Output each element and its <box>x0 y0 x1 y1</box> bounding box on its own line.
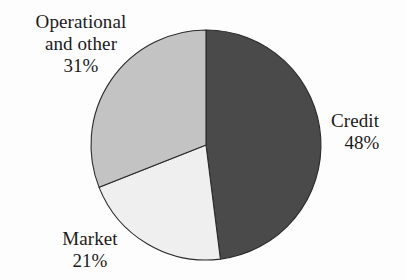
pie-label-credit-line1: Credit <box>331 110 403 132</box>
pie-slice-credit[interactable] <box>206 30 321 259</box>
pie-label-market-line1: Market <box>42 228 138 250</box>
pie-label-credit: Credit 48% <box>331 110 403 154</box>
pie-label-market-value: 21% <box>42 250 138 272</box>
pie-chart: Operational and other 31% Credit 48% Mar… <box>0 0 406 280</box>
pie-label-operational-line2: and other <box>6 33 156 55</box>
pie-label-credit-value: 48% <box>331 132 393 154</box>
pie-label-operational-line1: Operational <box>6 11 156 33</box>
pie-label-market: Market 21% <box>42 228 138 272</box>
pie-label-operational: Operational and other 31% <box>6 11 156 77</box>
pie-label-operational-value: 31% <box>6 55 156 77</box>
